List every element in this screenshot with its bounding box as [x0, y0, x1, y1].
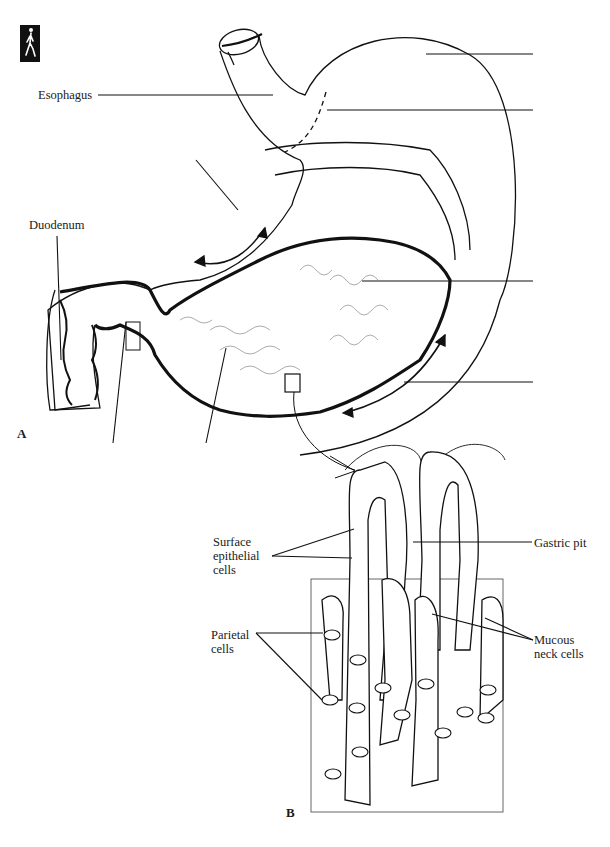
- parietal-leader-2: [256, 633, 322, 700]
- panel-a-label: A: [17, 427, 26, 441]
- gland-4: [412, 596, 438, 786]
- parietal-cells-label: Parietal cells: [211, 628, 249, 656]
- muscle-layer-inner: [275, 168, 455, 261]
- surface-epithelial-leader-1: [272, 529, 354, 556]
- gland-5: [322, 596, 343, 700]
- panel-b-label: B: [286, 806, 295, 820]
- surface-epithelial-cells-label: Surface epithelial cells: [213, 535, 260, 577]
- duodenum-wall: [47, 290, 100, 410]
- stomach-diagram: [0, 0, 610, 847]
- leader-lesser-curvature: [196, 160, 238, 210]
- arrow-head: [258, 228, 267, 238]
- gastric-glands: [322, 452, 503, 805]
- arrow-head: [343, 408, 353, 417]
- duodenum-leader: [57, 236, 61, 360]
- lesser-curvature-arrow: [195, 228, 265, 264]
- inset-box: [285, 374, 300, 392]
- mucosal-texture: [180, 265, 388, 374]
- arrow-head: [195, 256, 205, 266]
- gland-3: [380, 579, 412, 745]
- zoom-arrow-head: [330, 456, 355, 478]
- surface-epithelial-leader-2: [272, 556, 352, 558]
- esophagus-label: Esophagus: [38, 88, 92, 102]
- esophagus-left-wall: [220, 51, 303, 205]
- mucous-neck-cells-label: Mucous neck cells: [534, 633, 584, 661]
- pylorus-marker: [126, 322, 140, 350]
- gland-6: [480, 597, 503, 720]
- leader-antrum: [206, 348, 226, 443]
- gastric-pit-label: Gastric pit: [534, 536, 586, 550]
- gastric-pit-diagram: [311, 444, 505, 812]
- leader-pylorus: [113, 322, 126, 443]
- panel-a-leaders: [57, 54, 533, 443]
- lesser-curvature: [48, 205, 292, 410]
- duodenum-folds-left: [60, 300, 72, 405]
- duodenum-label: Duodenum: [29, 218, 85, 232]
- arrow-head: [436, 335, 445, 346]
